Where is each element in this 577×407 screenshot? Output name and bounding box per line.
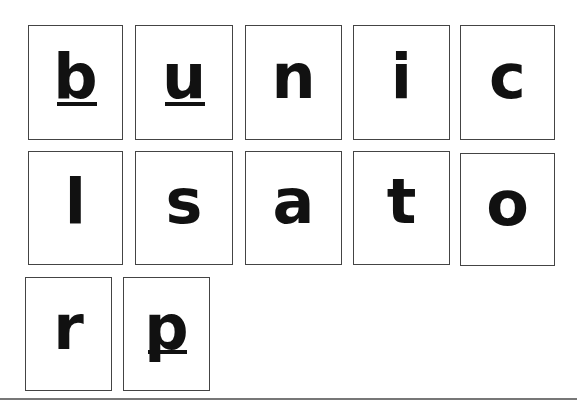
letter-card-n[interactable]: n [245,25,342,140]
page-divider [0,398,577,400]
letter-card-c[interactable]: c [460,25,555,140]
letter-card-t[interactable]: t [353,151,450,265]
card-letter: o [486,173,529,235]
letter-underline [165,102,205,106]
card-letter: i [391,46,412,108]
card-letter: a [273,171,315,233]
card-letter: r [53,297,84,359]
card-letter: c [489,46,526,108]
letter-underline [57,102,97,106]
card-letter: l [65,171,86,233]
letter-card-l[interactable]: l [28,151,123,265]
card-letter: t [387,171,417,233]
letter-card-r[interactable]: r [25,277,112,391]
card-letter: n [271,46,315,108]
card-letter: s [166,171,203,233]
letter-card-p[interactable]: p [123,277,210,391]
letter-card-i[interactable]: i [353,25,450,140]
card-letter: u [162,46,206,108]
letter-card-u[interactable]: u [135,25,233,140]
letter-card-o[interactable]: o [460,153,555,266]
letter-card-s[interactable]: s [135,151,233,265]
letter-card-b[interactable]: b [28,25,123,140]
letter-card-a[interactable]: a [245,151,342,265]
card-letter: b [53,46,97,108]
letter-underline [148,350,187,354]
